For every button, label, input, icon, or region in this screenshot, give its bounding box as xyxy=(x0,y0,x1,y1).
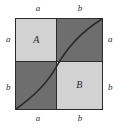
curve-path xyxy=(16,19,102,109)
region-label-a: A xyxy=(33,35,39,45)
edge-label-bottom-b: b xyxy=(78,114,83,123)
young-inequality-diagram: a b a b a b a b A B xyxy=(0,0,120,129)
edge-label-top-a: a xyxy=(36,4,41,13)
main-square: A B xyxy=(15,18,103,110)
region-label-b: B xyxy=(76,80,82,90)
edge-label-left-a: a xyxy=(6,35,11,44)
edge-label-right-b: b xyxy=(108,83,113,92)
edge-label-left-b: b xyxy=(6,83,11,92)
edge-label-right-a: a xyxy=(108,35,113,44)
edge-label-bottom-a: a xyxy=(36,114,41,123)
edge-label-top-b: b xyxy=(78,4,83,13)
function-curve xyxy=(16,19,102,109)
